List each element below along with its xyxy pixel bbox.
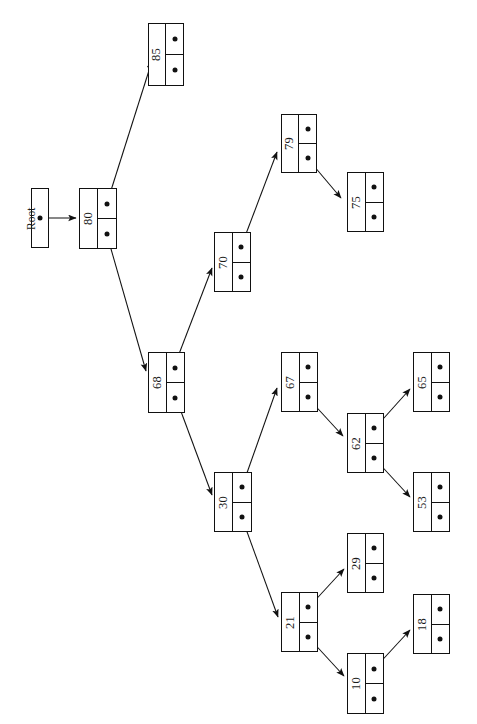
node-pointer-right (233, 503, 251, 532)
pointer-dot (240, 485, 245, 490)
pointer-dot (172, 37, 177, 42)
tree-node-65: 65 (413, 352, 450, 412)
pointer-dot (173, 365, 178, 370)
pointer-dot (372, 455, 377, 460)
node-pointer-left (167, 353, 185, 383)
node-pointer-cells (432, 473, 450, 531)
edge-80-left-to-85 (107, 61, 152, 203)
pointer-dot (372, 214, 377, 219)
node-key-cell: 85 (149, 24, 166, 85)
node-key-label: 21 (283, 615, 298, 628)
pointer-dot (306, 394, 311, 399)
node-pointer-left (98, 189, 116, 219)
node-pointer-right (432, 625, 450, 654)
node-pointer-right (300, 623, 318, 652)
node-pointer-left (432, 353, 450, 383)
tree-node-85: 85 (148, 23, 184, 86)
tree-node-68: 68 (148, 352, 185, 413)
node-pointer-left (299, 115, 316, 144)
pointer-dot (239, 274, 244, 279)
node-pointer-right (166, 55, 183, 85)
node-pointer-right (366, 444, 384, 473)
edge-30-right-to-21 (242, 518, 278, 617)
node-pointer-cells (166, 24, 183, 85)
node-pointer-right (366, 684, 384, 713)
pointer-dot (372, 546, 377, 551)
node-key-cell: 18 (414, 595, 432, 653)
node-pointer-left (233, 473, 251, 503)
node-key-label: 30 (216, 495, 231, 508)
node-pointer-cells (432, 595, 450, 653)
pointer-dot (438, 365, 443, 370)
tree-node-70: 70 (214, 232, 251, 292)
edge-layer (0, 0, 477, 724)
node-key-cell: 80 (80, 189, 98, 248)
node-pointer-right (300, 383, 318, 412)
pointer-dot (372, 426, 377, 431)
node-key-cell: 67 (282, 353, 300, 411)
node-key-label: 29 (349, 556, 364, 569)
tree-node-80: 80 (79, 188, 117, 249)
node-pointer-right (98, 219, 116, 248)
node-key-label: 80 (81, 212, 96, 225)
node-key-cell: 68 (149, 353, 167, 412)
pointer-dot (372, 185, 377, 190)
node-pointer-left (300, 353, 318, 383)
node-pointer-cells (167, 353, 185, 412)
node-key-label: 62 (349, 436, 364, 449)
pointer-dot (240, 514, 245, 519)
tree-node-21: 21 (281, 592, 318, 652)
node-key-label: 53 (415, 495, 430, 508)
pointer-dot (372, 696, 377, 701)
edge-80-right-to-68 (107, 235, 146, 371)
pointer-dot (372, 666, 377, 671)
node-key-label: 79 (282, 137, 297, 150)
node-pointer-right (366, 564, 384, 593)
node-pointer-left (432, 595, 450, 625)
pointer-dot (438, 636, 443, 641)
node-pointer-left (366, 654, 384, 684)
node-key-label: 10 (349, 677, 364, 690)
root-pointer-dot (38, 216, 43, 221)
pointer-dot (305, 156, 310, 161)
pointer-dot (306, 605, 311, 610)
tree-node-30: 30 (214, 472, 252, 532)
node-pointer-cells (233, 473, 251, 531)
pointer-dot (438, 607, 443, 612)
node-pointer-cells (300, 593, 318, 651)
node-key-cell: 75 (348, 173, 366, 231)
pointer-dot (438, 394, 443, 399)
node-pointer-right (432, 503, 450, 532)
node-pointer-cells (432, 353, 450, 411)
node-pointer-cells (233, 233, 251, 291)
root-label: Root (25, 208, 37, 230)
tree-node-75: 75 (347, 172, 384, 232)
tree-node-29: 29 (347, 533, 384, 593)
node-key-cell: 10 (348, 654, 366, 713)
node-pointer-cells (98, 189, 116, 248)
node-pointer-right (233, 263, 251, 292)
pointer-dot (438, 485, 443, 490)
node-pointer-right (432, 383, 450, 412)
node-pointer-right (167, 383, 185, 412)
node-pointer-left (366, 534, 384, 564)
node-key-label: 18 (415, 617, 430, 630)
tree-node-10: 10 (347, 653, 384, 714)
pointer-dot (105, 231, 110, 236)
node-key-label: 70 (216, 255, 231, 268)
pointer-dot (306, 634, 311, 639)
tree-node-67: 67 (281, 352, 318, 412)
pointer-dot (305, 127, 310, 132)
node-key-cell: 65 (414, 353, 432, 411)
figure-canvas: Root 858079757068676265533021291018 (0, 0, 477, 724)
node-key-label: 85 (149, 48, 164, 61)
node-pointer-cells (299, 115, 316, 172)
node-pointer-left (300, 593, 318, 623)
node-pointer-cells (366, 173, 384, 231)
node-pointer-left (432, 473, 450, 503)
node-pointer-left (166, 24, 183, 55)
tree-node-18: 18 (413, 594, 450, 654)
node-key-label: 65 (415, 375, 430, 388)
node-key-label: 67 (283, 375, 298, 388)
tree-node-62: 62 (347, 413, 384, 473)
